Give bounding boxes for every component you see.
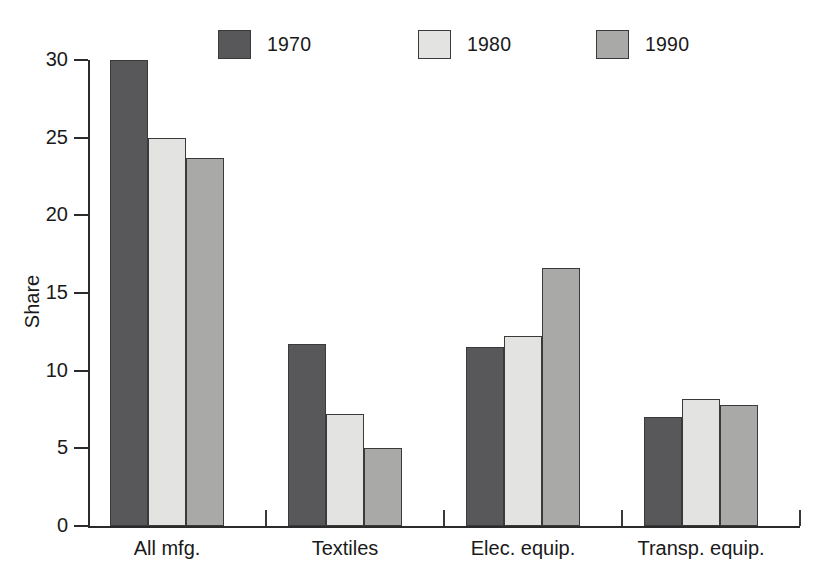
bar-elec-equip--1980 — [504, 336, 542, 526]
bar-textiles-1970 — [288, 344, 326, 526]
bar-textiles-1990 — [364, 448, 402, 526]
bar-elec-equip--1990 — [542, 268, 580, 526]
y-tick-label-10: 10 — [0, 360, 68, 380]
y-tick-15 — [74, 292, 88, 294]
x-label-all-mfg: All mfg. — [134, 536, 201, 560]
y-axis-label: Share — [21, 252, 44, 352]
bar-all-mfg--1970 — [110, 60, 148, 526]
group-separator-2 — [443, 510, 445, 526]
bar-textiles-1980 — [326, 414, 364, 526]
y-tick-label-wrap-5: 5 — [0, 437, 68, 457]
y-tick-5 — [74, 447, 88, 449]
bar-all-mfg--1980 — [148, 138, 186, 526]
group-separator-1 — [265, 510, 267, 526]
y-tick-label-5: 5 — [0, 437, 68, 457]
y-tick-label-30: 30 — [0, 49, 68, 69]
bar-transp-equip--1990 — [720, 405, 758, 526]
x-label-transp-equip: Transp. equip. — [637, 536, 764, 560]
y-tick-label-wrap-20: 20 — [0, 204, 68, 224]
y-tick-label-wrap-30: 30 — [0, 49, 68, 69]
bar-all-mfg--1990 — [186, 158, 224, 526]
group-separator-end — [799, 510, 801, 526]
bar-transp-equip--1980 — [682, 399, 720, 526]
bar-elec-equip--1970 — [466, 347, 504, 526]
x-label-elec-equip: Elec. equip. — [471, 536, 576, 560]
y-tick-label-wrap-0: 0 — [0, 515, 68, 535]
y-tick-label-0: 0 — [0, 515, 68, 535]
y-tick-label-25: 25 — [0, 127, 68, 147]
y-tick-25 — [74, 137, 88, 139]
x-label-textiles: Textiles — [312, 536, 379, 560]
group-separator-3 — [621, 510, 623, 526]
x-axis-line — [88, 526, 800, 528]
y-tick-label-wrap-10: 10 — [0, 360, 68, 380]
y-tick-0 — [74, 525, 88, 527]
y-tick-30 — [74, 59, 88, 61]
y-axis-line — [88, 60, 90, 527]
y-tick-10 — [74, 370, 88, 372]
y-tick-label-20: 20 — [0, 204, 68, 224]
bar-chart: 1970 1980 1990 051015202530 All mfg.Text… — [0, 0, 830, 581]
plot-area: 051015202530 All mfg.TextilesElec. equip… — [0, 0, 830, 581]
y-tick-20 — [74, 214, 88, 216]
y-tick-label-wrap-25: 25 — [0, 127, 68, 147]
bar-transp-equip--1970 — [644, 417, 682, 526]
